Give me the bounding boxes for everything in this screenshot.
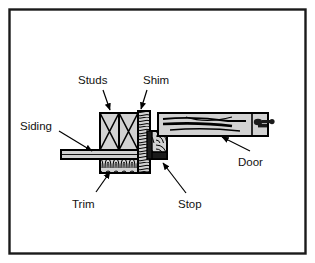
- label-stop: Stop: [178, 198, 202, 210]
- part-siding: [61, 150, 143, 159]
- label-studs: Studs: [78, 74, 108, 86]
- leader-door: [222, 137, 250, 151]
- leader-shim: [141, 90, 147, 109]
- diagram-canvas: Studs Shim Siding Trim Stop Door: [0, 0, 315, 263]
- label-trim: Trim: [72, 198, 95, 210]
- part-studs: [100, 113, 138, 150]
- part-door: [158, 113, 275, 136]
- label-door: Door: [238, 156, 263, 168]
- diagram-figure: Studs Shim Siding Trim Stop Door: [0, 0, 315, 263]
- label-shim: Shim: [143, 74, 169, 86]
- leader-studs: [103, 90, 110, 110]
- leader-stop: [163, 163, 186, 193]
- label-siding: Siding: [20, 120, 52, 132]
- leader-siding: [59, 131, 92, 151]
- leader-trim: [96, 172, 110, 192]
